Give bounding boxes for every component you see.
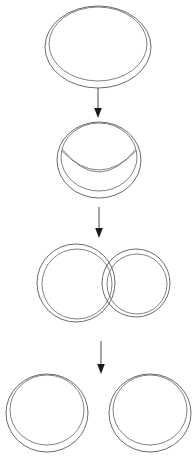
arrow-head-icon <box>97 364 105 374</box>
ring-outer-contour <box>45 6 151 88</box>
ring-left <box>37 244 115 322</box>
arrow-head-icon <box>94 108 102 118</box>
ring-outer-contour <box>37 244 115 322</box>
arrow-stage1-to-stage2 <box>94 88 102 118</box>
ring-right <box>109 374 191 452</box>
arrow-stage3-to-stage4 <box>97 341 105 374</box>
ring-inner-contour <box>10 375 84 445</box>
stage-1-intact-ring <box>45 6 151 88</box>
ring-outer-contour <box>6 374 88 452</box>
stage-3-overlapping-rings <box>37 244 170 322</box>
arrow-head-icon <box>95 228 103 238</box>
ring-inner-contour <box>107 254 167 314</box>
ring-inner-contour <box>61 123 137 191</box>
ring-inner-contour <box>49 7 147 81</box>
diagram-canvas <box>0 0 194 456</box>
crescent-lower-arc <box>62 149 136 172</box>
ring-outer-contour <box>109 374 191 452</box>
ring-left <box>6 374 88 452</box>
ring-outer-contour <box>57 122 141 198</box>
arrow-stage2-to-stage3 <box>95 207 103 238</box>
stage-2-pinching-ring <box>57 122 141 198</box>
ring-inner-contour <box>113 375 187 445</box>
ring-inner-contour <box>42 249 112 319</box>
stage-4-separated-rings <box>6 374 191 452</box>
ring-fission-diagram <box>0 0 194 456</box>
